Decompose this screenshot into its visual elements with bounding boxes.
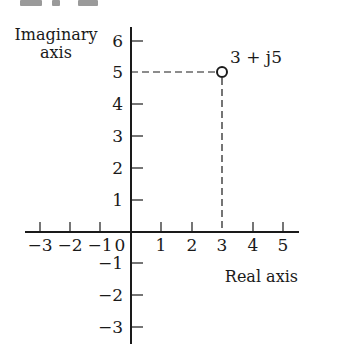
svg-text:2: 2	[112, 158, 123, 178]
svg-text:−2: −2	[57, 235, 82, 255]
real-axis-ticks	[40, 222, 283, 232]
svg-text:−1: −1	[87, 235, 112, 255]
imaginary-axis-title-line2: axis	[40, 43, 72, 62]
imaginary-axis-tick-labels: 6 5 4 3 2 1 −1 −2 −3	[98, 31, 123, 337]
svg-text:3: 3	[217, 235, 228, 255]
svg-text:6: 6	[112, 31, 123, 51]
svg-text:−3: −3	[98, 317, 123, 337]
real-axis-title: Real axis	[225, 267, 298, 286]
cropped-header-remnant	[20, 0, 98, 6]
svg-text:−1: −1	[98, 253, 123, 273]
complex-point-marker	[217, 67, 227, 77]
svg-text:5: 5	[112, 62, 123, 82]
real-axis-tick-labels: −3 −2 −1 0 1 2 3 4 5	[27, 235, 288, 255]
imaginary-axis-ticks	[131, 41, 143, 327]
svg-text:4: 4	[112, 94, 123, 114]
svg-text:2: 2	[187, 235, 198, 255]
svg-text:0: 0	[115, 235, 126, 255]
svg-text:−3: −3	[27, 235, 52, 255]
svg-text:4: 4	[248, 235, 259, 255]
svg-text:5: 5	[278, 235, 289, 255]
point-label: 3 + j5	[230, 47, 282, 67]
svg-text:1: 1	[112, 190, 123, 210]
svg-text:−2: −2	[98, 285, 123, 305]
svg-text:1: 1	[156, 235, 167, 255]
complex-plane-diagram: 3 + j5 Imaginary axis Real axis −3 −2 −1…	[0, 0, 340, 350]
svg-text:3: 3	[112, 126, 123, 146]
imaginary-axis-title: Imaginary	[15, 25, 98, 44]
